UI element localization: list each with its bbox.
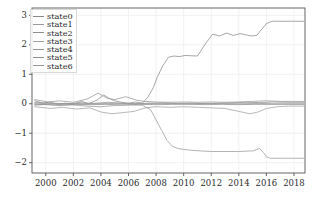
x-tick-label: 2010 xyxy=(170,178,198,188)
x-tick-label: 2012 xyxy=(197,178,225,188)
x-tick-label: 2004 xyxy=(87,178,115,188)
y-tick-label: −1 xyxy=(14,128,27,138)
x-tick-label: 2002 xyxy=(59,178,87,188)
x-tick-label: 2008 xyxy=(142,178,170,188)
legend-swatch-icon xyxy=(33,24,44,25)
series-line-state4 xyxy=(35,93,304,102)
legend-swatch-icon xyxy=(33,32,44,33)
legend-label: state6 xyxy=(47,62,73,70)
legend-swatch-icon xyxy=(33,49,44,50)
legend-item-state6: state6 xyxy=(33,62,73,70)
series-line-state1 xyxy=(35,104,304,158)
legend-swatch-icon xyxy=(33,16,44,17)
x-tick-label: 2000 xyxy=(32,178,60,188)
legend-swatch-icon xyxy=(33,41,44,42)
y-tick-label: 3 xyxy=(22,10,27,20)
y-tick-label: −2 xyxy=(14,157,27,167)
y-tick-label: 1 xyxy=(22,69,27,79)
series-line-state3 xyxy=(35,106,304,114)
y-tick-label: 2 xyxy=(22,39,27,49)
x-tick-label: 2006 xyxy=(115,178,143,188)
x-tick-label: 2014 xyxy=(225,178,253,188)
legend: state0state1state2state3state4state5stat… xyxy=(30,9,77,73)
legend-swatch-icon xyxy=(33,65,44,66)
x-tick-label: 2016 xyxy=(252,178,280,188)
figure: 3210−1−2 2000200220042006200820102012201… xyxy=(0,0,320,200)
x-tick-label: 2018 xyxy=(280,178,308,188)
y-tick-label: 0 xyxy=(22,98,27,108)
legend-swatch-icon xyxy=(33,57,44,58)
